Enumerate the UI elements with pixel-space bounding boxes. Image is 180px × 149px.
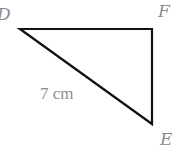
vertex-label-f: F bbox=[158, 3, 170, 20]
hypotenuse-length-label: 7 cm bbox=[40, 85, 74, 102]
triangle-diagram: D F E 7 cm bbox=[0, 0, 180, 149]
vertex-label-e: E bbox=[160, 131, 172, 148]
triangle-svg bbox=[0, 0, 180, 149]
triangle-def bbox=[20, 29, 152, 124]
vertex-label-d: D bbox=[0, 6, 11, 23]
